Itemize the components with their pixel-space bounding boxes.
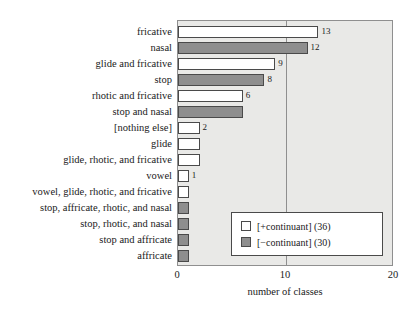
bar-value-label: 6 bbox=[246, 88, 251, 102]
bar-value-label: 1 bbox=[192, 168, 197, 182]
bar bbox=[178, 26, 318, 38]
bar bbox=[178, 42, 308, 54]
category-label: nasal bbox=[150, 40, 172, 56]
bar-row: 9 bbox=[178, 57, 392, 73]
bar-value-label: 12 bbox=[311, 40, 320, 54]
bar bbox=[178, 218, 189, 230]
category-label: [nothing else] bbox=[114, 120, 172, 136]
category-label: vowel bbox=[146, 168, 172, 184]
legend-swatch-minus-continuant bbox=[241, 237, 251, 247]
bar-chart-figure: fricativenasalglide and fricativestoprho… bbox=[0, 0, 403, 312]
category-label: vowel, glide, rhotic, and fricative bbox=[32, 184, 172, 200]
bar bbox=[178, 138, 200, 150]
bar bbox=[178, 154, 200, 166]
bar bbox=[178, 170, 189, 182]
category-label: stop, rhotic, and nasal bbox=[80, 216, 172, 232]
bar-row: 6 bbox=[178, 89, 392, 105]
x-tick-label-10: 10 bbox=[280, 268, 291, 282]
bar bbox=[178, 186, 189, 198]
bar-row bbox=[178, 105, 392, 121]
category-label: fricative bbox=[137, 24, 172, 40]
x-axis-tick-labels: 01020 bbox=[0, 268, 403, 282]
x-tick-label-20: 20 bbox=[388, 268, 399, 282]
category-axis-labels: fricativenasalglide and fricativestoprho… bbox=[0, 20, 175, 266]
bar-value-label: 2 bbox=[203, 120, 208, 134]
category-label: affricate bbox=[137, 248, 172, 264]
legend-label-minus-continuant: [−continuant] (30) bbox=[257, 237, 331, 248]
bar-row: 2 bbox=[178, 121, 392, 137]
category-label: rhotic and fricative bbox=[92, 88, 172, 104]
bar-value-label: 9 bbox=[278, 56, 283, 70]
legend-entry-plus-continuant: [+continuant] (36) bbox=[241, 218, 382, 234]
legend-entry-minus-continuant: [−continuant] (30) bbox=[241, 234, 382, 250]
bar-value-label: 8 bbox=[267, 72, 272, 86]
category-label: stop, affricate, rhotic, and nasal bbox=[40, 200, 172, 216]
bar-row bbox=[178, 185, 392, 201]
bar bbox=[178, 250, 189, 262]
legend-swatch-plus-continuant bbox=[241, 221, 251, 231]
category-label: glide, rhotic, and fricative bbox=[63, 152, 172, 168]
chart-legend: [+continuant] (36) [−continuant] (30) bbox=[231, 212, 383, 256]
bar-row: 1 bbox=[178, 169, 392, 185]
category-label: stop bbox=[154, 72, 172, 88]
bar-row: 13 bbox=[178, 25, 392, 41]
bar bbox=[178, 106, 243, 118]
category-label: stop and nasal bbox=[113, 104, 173, 120]
bar-value-label: 13 bbox=[321, 24, 330, 38]
legend-label-plus-continuant: [+continuant] (36) bbox=[257, 221, 331, 232]
category-label: glide and fricative bbox=[96, 56, 172, 72]
bar bbox=[178, 234, 189, 246]
bar bbox=[178, 202, 189, 214]
bar-row: 12 bbox=[178, 41, 392, 57]
bar bbox=[178, 58, 275, 70]
x-axis-title: number of classes bbox=[177, 286, 393, 297]
bar-row bbox=[178, 153, 392, 169]
bar-row: 8 bbox=[178, 73, 392, 89]
category-label: stop and affricate bbox=[99, 232, 172, 248]
bar-row bbox=[178, 137, 392, 153]
bar bbox=[178, 74, 264, 86]
x-tick-label-0: 0 bbox=[174, 268, 179, 282]
bar bbox=[178, 90, 243, 102]
bar bbox=[178, 122, 200, 134]
category-label: glide bbox=[151, 136, 172, 152]
